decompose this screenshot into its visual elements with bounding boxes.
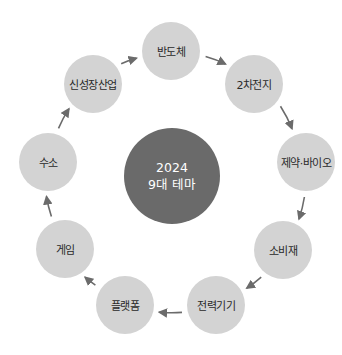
cycle-arrow <box>59 109 69 128</box>
node-semiconductor: 반도체 <box>142 22 200 80</box>
node-label: 제약·바이오 <box>281 154 332 170</box>
cycle-arrow <box>159 312 182 313</box>
node-label: 수소 <box>39 154 58 170</box>
cycle-arrow <box>47 197 52 217</box>
node-power-equipment: 전력기기 <box>187 276 245 334</box>
node-platform: 플랫폼 <box>96 276 154 334</box>
node-hydrogen: 수소 <box>19 133 77 191</box>
node-pharma-bio: 제약·바이오 <box>277 133 335 191</box>
node-label: 신성장산업 <box>69 76 117 92</box>
theme-cycle-diagram: 2024 9대 테마 반도체 2차전지 제약·바이오 소비재 전력기기 플랫폼 … <box>0 0 342 355</box>
node-game: 게임 <box>36 220 94 278</box>
cycle-arrow <box>247 277 261 288</box>
cycle-arrow <box>121 58 136 64</box>
cycle-arrow <box>299 197 304 219</box>
cycle-arrow <box>85 277 95 285</box>
cycle-arrow <box>281 106 293 129</box>
node-new-growth-industry: 신성장산업 <box>64 55 122 113</box>
center-subtitle: 9대 테마 <box>148 176 196 193</box>
center-year: 2024 <box>156 159 188 176</box>
center-title-circle: 2024 9대 테마 <box>124 128 220 224</box>
node-label: 반도체 <box>157 43 186 59</box>
node-secondary-battery: 2차전지 <box>225 55 283 113</box>
node-label: 플랫폼 <box>111 297 140 313</box>
node-consumer-goods: 소비재 <box>254 221 312 279</box>
node-label: 전력기기 <box>197 297 235 313</box>
node-label: 게임 <box>56 241 75 257</box>
cycle-arrow <box>206 57 226 65</box>
node-label: 소비재 <box>269 242 298 258</box>
node-label: 2차전지 <box>237 76 272 92</box>
